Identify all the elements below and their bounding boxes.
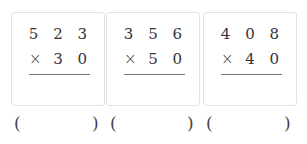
problem-card-3: 4 0 8 × 4 0 [203, 12, 297, 106]
answer-close-paren: ) [92, 113, 99, 133]
answer-close-paren: ) [284, 113, 291, 133]
multiplicand: 5 2 3 [29, 25, 92, 43]
answer-open-paren: ( [14, 113, 21, 133]
answer-open-paren: ( [110, 113, 117, 133]
answer-open-paren: ( [206, 113, 213, 133]
multiply-sign: × [29, 50, 42, 68]
multiply-sign: × [221, 50, 234, 68]
multiplier: 5 0 [148, 50, 187, 68]
underline-rule [29, 74, 90, 75]
problem-card-1: 5 2 3 × 3 0 [11, 12, 105, 106]
problem-card-2: 3 5 6 × 5 0 [106, 12, 200, 106]
multiplicand: 4 0 8 [221, 25, 284, 43]
multiplier: 3 0 [53, 50, 92, 68]
multiplicand: 3 5 6 [124, 25, 187, 43]
underline-rule [221, 74, 282, 75]
multiply-sign: × [124, 50, 137, 68]
answer-close-paren: ) [187, 113, 194, 133]
multiplier: 4 0 [245, 50, 284, 68]
underline-rule [124, 74, 185, 75]
